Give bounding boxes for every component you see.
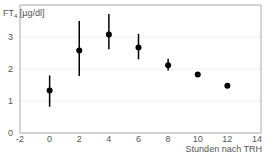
x-tick-label: 2 xyxy=(77,134,82,144)
x-tick-label: 8 xyxy=(166,134,171,144)
y-tick-label: 3 xyxy=(8,32,13,42)
y-axis-label: FT4 [µg/dl] xyxy=(3,8,45,19)
data-point xyxy=(224,83,230,89)
data-series xyxy=(47,14,231,107)
y-tick-label: 2 xyxy=(8,64,13,74)
y-axis-ticks: 0123 xyxy=(8,32,13,138)
data-point xyxy=(106,31,112,37)
x-tick-label: 10 xyxy=(193,134,203,144)
y-tick-label: 1 xyxy=(8,96,13,106)
y-tick-label: 0 xyxy=(8,128,13,138)
data-point xyxy=(165,62,171,68)
x-tick-label: 4 xyxy=(106,134,111,144)
data-point xyxy=(195,71,201,77)
data-point xyxy=(76,47,82,53)
chart: 0123 -202468101214 FT4 [µg/dl] Stunden n… xyxy=(0,0,267,155)
x-tick-label: 14 xyxy=(252,134,262,144)
data-point xyxy=(47,87,53,93)
x-axis-label: Stunden nach TRH xyxy=(186,144,262,154)
x-tick-label: -2 xyxy=(16,134,24,144)
x-tick-label: 12 xyxy=(222,134,232,144)
x-tick-label: 0 xyxy=(47,134,52,144)
data-point xyxy=(136,45,142,51)
x-axis-ticks: -202468101214 xyxy=(16,134,262,144)
x-tick-label: 6 xyxy=(136,134,141,144)
